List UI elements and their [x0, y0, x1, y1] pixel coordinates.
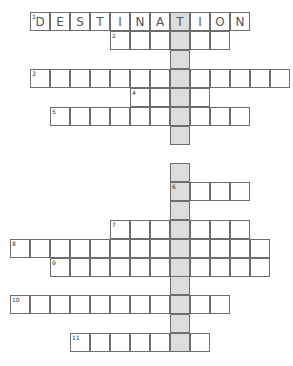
crossword-cell[interactable]	[230, 107, 250, 126]
crossword-cell[interactable]	[210, 258, 230, 277]
crossword-cell[interactable]	[130, 239, 150, 258]
crossword-cell[interactable]: 8	[10, 239, 30, 258]
crossword-cell[interactable]	[190, 295, 210, 314]
crossword-cell-highlighted[interactable]	[170, 220, 190, 239]
crossword-cell[interactable]: 5	[50, 107, 70, 126]
crossword-cell[interactable]: A	[150, 12, 170, 31]
crossword-cell[interactable]	[70, 239, 90, 258]
crossword-cell-highlighted[interactable]	[170, 201, 190, 220]
crossword-cell[interactable]	[150, 31, 170, 50]
crossword-cell[interactable]	[110, 107, 130, 126]
crossword-cell[interactable]	[230, 258, 250, 277]
crossword-cell[interactable]	[30, 239, 50, 258]
crossword-cell-highlighted[interactable]	[170, 126, 190, 145]
crossword-cell[interactable]	[110, 333, 130, 352]
crossword-cell-highlighted[interactable]: 6	[170, 182, 190, 201]
crossword-cell[interactable]	[230, 239, 250, 258]
crossword-cell[interactable]	[210, 220, 230, 239]
crossword-cell-highlighted[interactable]	[170, 333, 190, 352]
crossword-cell[interactable]: O	[210, 12, 230, 31]
crossword-cell[interactable]	[210, 107, 230, 126]
crossword-cell[interactable]	[250, 239, 270, 258]
crossword-cell[interactable]	[190, 88, 210, 107]
crossword-cell[interactable]: N	[130, 12, 150, 31]
crossword-cell[interactable]	[130, 258, 150, 277]
crossword-cell[interactable]	[150, 239, 170, 258]
crossword-cell[interactable]	[130, 107, 150, 126]
crossword-cell[interactable]	[70, 258, 90, 277]
crossword-cell[interactable]	[90, 258, 110, 277]
crossword-cell[interactable]: 10	[10, 295, 30, 314]
crossword-cell[interactable]	[250, 69, 270, 88]
crossword-cell[interactable]: 11	[70, 333, 90, 352]
crossword-cell[interactable]	[70, 295, 90, 314]
crossword-cell[interactable]	[150, 258, 170, 277]
crossword-cell[interactable]	[110, 258, 130, 277]
crossword-cell[interactable]	[190, 182, 210, 201]
crossword-cell[interactable]: N	[230, 12, 250, 31]
crossword-cell[interactable]: S	[70, 12, 90, 31]
crossword-cell[interactable]	[90, 295, 110, 314]
crossword-cell[interactable]	[150, 333, 170, 352]
crossword-cell-highlighted[interactable]	[170, 163, 190, 182]
crossword-cell[interactable]	[130, 69, 150, 88]
crossword-cell-highlighted[interactable]	[170, 295, 190, 314]
crossword-cell[interactable]: 2	[110, 31, 130, 50]
crossword-cell[interactable]	[270, 69, 290, 88]
crossword-cell-highlighted[interactable]	[170, 107, 190, 126]
crossword-cell[interactable]: 4	[130, 88, 150, 107]
crossword-cell[interactable]	[50, 69, 70, 88]
crossword-cell[interactable]	[190, 258, 210, 277]
crossword-cell[interactable]	[230, 220, 250, 239]
crossword-cell[interactable]	[190, 107, 210, 126]
crossword-cell[interactable]	[150, 69, 170, 88]
crossword-cell-highlighted[interactable]	[170, 258, 190, 277]
crossword-cell-highlighted[interactable]	[170, 31, 190, 50]
crossword-cell[interactable]	[90, 69, 110, 88]
crossword-cell[interactable]: T	[90, 12, 110, 31]
crossword-cell-highlighted[interactable]: T	[170, 12, 190, 31]
crossword-cell-highlighted[interactable]	[170, 69, 190, 88]
crossword-cell[interactable]	[210, 31, 230, 50]
crossword-cell[interactable]	[190, 69, 210, 88]
crossword-cell[interactable]: 3	[30, 69, 50, 88]
crossword-cell[interactable]	[230, 182, 250, 201]
crossword-cell[interactable]	[230, 69, 250, 88]
crossword-cell-highlighted[interactable]	[170, 50, 190, 69]
crossword-cell[interactable]	[110, 239, 130, 258]
crossword-cell[interactable]	[150, 88, 170, 107]
crossword-cell[interactable]	[50, 239, 70, 258]
crossword-cell[interactable]	[70, 107, 90, 126]
crossword-cell[interactable]: I	[190, 12, 210, 31]
crossword-cell[interactable]	[210, 295, 230, 314]
crossword-cell[interactable]	[90, 107, 110, 126]
crossword-cell[interactable]	[130, 31, 150, 50]
crossword-cell[interactable]	[150, 295, 170, 314]
crossword-cell[interactable]	[150, 220, 170, 239]
crossword-cell[interactable]	[110, 69, 130, 88]
crossword-cell[interactable]: 9	[50, 258, 70, 277]
crossword-cell[interactable]: E	[50, 12, 70, 31]
crossword-cell[interactable]: 7	[110, 220, 130, 239]
crossword-cell[interactable]	[150, 107, 170, 126]
crossword-cell-highlighted[interactable]	[170, 276, 190, 295]
crossword-cell[interactable]	[130, 333, 150, 352]
crossword-cell[interactable]	[210, 182, 230, 201]
crossword-cell[interactable]: 1D	[30, 12, 50, 31]
crossword-cell[interactable]	[110, 295, 130, 314]
crossword-cell[interactable]	[190, 31, 210, 50]
crossword-cell[interactable]	[250, 258, 270, 277]
crossword-cell[interactable]	[130, 295, 150, 314]
crossword-cell[interactable]	[210, 239, 230, 258]
crossword-cell[interactable]	[210, 69, 230, 88]
crossword-cell-highlighted[interactable]	[170, 239, 190, 258]
crossword-cell[interactable]	[190, 220, 210, 239]
crossword-cell[interactable]	[190, 239, 210, 258]
crossword-cell[interactable]	[130, 220, 150, 239]
crossword-cell[interactable]	[50, 295, 70, 314]
crossword-cell[interactable]	[190, 333, 210, 352]
crossword-cell[interactable]	[90, 239, 110, 258]
crossword-cell[interactable]: I	[110, 12, 130, 31]
crossword-cell[interactable]	[30, 295, 50, 314]
crossword-cell[interactable]	[90, 333, 110, 352]
